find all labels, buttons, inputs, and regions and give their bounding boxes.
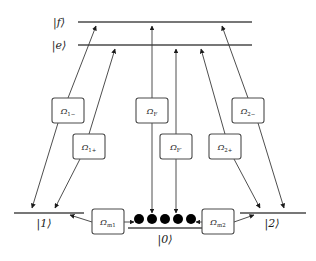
coupling-box-omega-2-minus[interactable]: Ω2− bbox=[232, 98, 264, 123]
level-label-e: |e⟩ bbox=[52, 39, 67, 53]
ray-omega-2-plus-upper bbox=[201, 49, 225, 134]
atom-chain bbox=[134, 214, 196, 224]
omega-subscript: 2+ bbox=[224, 147, 232, 153]
omega-subscript: 1− bbox=[67, 111, 75, 117]
ray-omega-2-plus-lower bbox=[234, 159, 260, 208]
atom-dot bbox=[134, 214, 144, 224]
coupling-box-omega-F-prime[interactable]: ΩF′ bbox=[160, 134, 192, 159]
ray-omega-1-minus-upper bbox=[68, 26, 96, 98]
omega-subscript: 1+ bbox=[88, 147, 96, 153]
ray-omega-2-minus-upper bbox=[222, 26, 248, 98]
omega-subscript: F bbox=[153, 111, 157, 117]
level-label-2: |2⟩ bbox=[265, 217, 280, 231]
atom-dot bbox=[173, 214, 183, 224]
omega-subscript: 2− bbox=[247, 111, 255, 117]
atom-dot bbox=[160, 214, 170, 224]
energy-level-diagram: |f⟩ |e⟩ |1⟩ |0⟩ |2⟩ Ω1− bbox=[0, 0, 316, 261]
atom-dot bbox=[147, 214, 157, 224]
coupling-box-omega-F[interactable]: ΩF bbox=[136, 98, 168, 123]
level-label-0: |0⟩ bbox=[158, 233, 173, 247]
level-label-1: |1⟩ bbox=[37, 217, 52, 231]
ray-omega-1-plus-upper bbox=[89, 49, 115, 134]
omega-subscript: m1 bbox=[107, 222, 116, 228]
omega-subscript: F′ bbox=[177, 147, 183, 153]
level-label-f: |f⟩ bbox=[53, 16, 65, 30]
ray-omega-2-minus-lower bbox=[258, 123, 284, 208]
ray-omega-m2-to-2 bbox=[234, 215, 254, 222]
ray-omega-1-plus-lower bbox=[55, 159, 80, 208]
coupling-box-omega-m2[interactable]: Ωm2 bbox=[202, 209, 234, 234]
ray-omega-1-minus-lower bbox=[32, 123, 58, 208]
ray-omega-m1-to-1 bbox=[70, 215, 92, 222]
coupling-box-omega-1-minus[interactable]: Ω1− bbox=[52, 98, 84, 123]
coupling-box-omega-1-plus[interactable]: Ω1+ bbox=[73, 134, 105, 159]
coupling-box-omega-2-plus[interactable]: Ω2+ bbox=[209, 134, 241, 159]
coupling-box-omega-m1[interactable]: Ωm1 bbox=[92, 209, 124, 234]
omega-subscript: m2 bbox=[217, 222, 226, 228]
atom-dot bbox=[186, 214, 196, 224]
